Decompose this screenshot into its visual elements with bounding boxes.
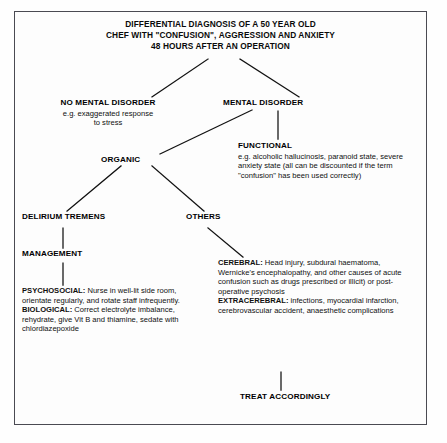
page-title-line-1: DIFFERENTIAL DIAGNOSIS OF A 50 YEAR OLD: [22, 19, 419, 30]
cerebral-label: CEREBRAL:: [218, 258, 263, 267]
biological-label: BIOLOGICAL:: [22, 305, 72, 314]
node-delirium-tremens: DELIRIUM TREMENS: [22, 212, 105, 223]
extracerebral-paragraph: EXTRACEREBRAL: infections, myocardial in…: [218, 296, 418, 315]
cerebral-paragraph: CEREBRAL: Head injury, subdural haematom…: [218, 258, 418, 296]
extracerebral-label: EXTRACEREBRAL:: [218, 296, 288, 305]
page-title-line-2: CHEF WITH "CONFUSION", AGGRESSION AND AN…: [22, 30, 419, 41]
node-no-mental-disorder: NO MENTAL DISORDER e.g. exaggerated resp…: [24, 98, 192, 128]
node-organic: ORGANIC: [101, 155, 140, 166]
no-mental-disorder-detail-line-1: e.g. exaggerated response: [24, 109, 192, 119]
psychosocial-paragraph: PSYCHOSOCIAL: Nurse in well-lit side roo…: [22, 286, 204, 305]
management-heading: MANAGEMENT: [22, 249, 82, 260]
node-others: OTHERS: [186, 212, 221, 223]
node-mental-disorder: MENTAL DISORDER: [223, 98, 303, 109]
others-detail-block: CEREBRAL: Head injury, subdural haematom…: [218, 258, 418, 315]
treat-accordingly-heading: TREAT ACCORDINGLY: [240, 392, 330, 403]
page-title-line-3: 48 HOURS AFTER AN OPERATION: [22, 41, 419, 52]
no-mental-disorder-detail-line-2: to stress: [24, 118, 192, 128]
management-detail-block: PSYCHOSOCIAL: Nurse in well-lit side roo…: [22, 286, 204, 334]
mental-disorder-heading: MENTAL DISORDER: [223, 98, 303, 109]
psychosocial-label: PSYCHOSOCIAL:: [22, 286, 85, 295]
node-treat-accordingly: TREAT ACCORDINGLY: [240, 392, 330, 403]
no-mental-disorder-heading: NO MENTAL DISORDER: [24, 98, 192, 109]
diagram-page: DIFFERENTIAL DIAGNOSIS OF A 50 YEAR OLD …: [0, 0, 447, 443]
organic-heading: ORGANIC: [101, 155, 140, 166]
others-heading: OTHERS: [186, 212, 221, 223]
page-title: DIFFERENTIAL DIAGNOSIS OF A 50 YEAR OLD …: [22, 19, 419, 53]
delirium-tremens-heading: DELIRIUM TREMENS: [22, 212, 105, 223]
node-management: MANAGEMENT: [22, 249, 82, 260]
functional-detail: e.g. alcoholic hallucinosis, paranoid st…: [238, 152, 424, 181]
node-functional: FUNCTIONAL e.g. alcoholic hallucinosis, …: [238, 141, 424, 180]
biological-paragraph: BIOLOGICAL: Correct electrolyte imbalanc…: [22, 305, 204, 334]
functional-heading: FUNCTIONAL: [238, 141, 424, 152]
